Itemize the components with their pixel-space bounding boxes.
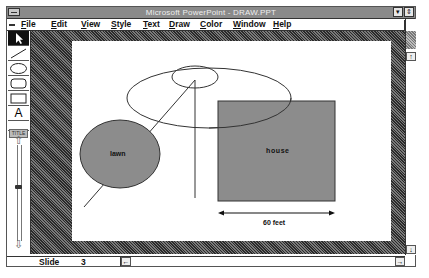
- zoom-slider-thumb[interactable]: [15, 185, 22, 189]
- slide-workspace: lawn house 60 feet: [31, 31, 405, 254]
- title-bar[interactable]: Microsoft PowerPoint - DRAW.PPT ▾ ⇕: [7, 7, 415, 19]
- menu-color[interactable]: Color: [200, 19, 222, 30]
- menu-view[interactable]: View: [81, 19, 100, 30]
- tool-rectangle[interactable]: [8, 91, 29, 106]
- tool-text[interactable]: A: [8, 106, 29, 121]
- window-title: Microsoft PowerPoint - DRAW.PPT: [7, 7, 415, 18]
- tool-rounded-rectangle[interactable]: [8, 76, 29, 91]
- menu-text[interactable]: Text: [143, 19, 160, 30]
- menu-style[interactable]: Style: [111, 19, 131, 30]
- scroll-right-button[interactable]: →: [395, 257, 405, 266]
- slide-drawing: [72, 41, 391, 241]
- text-tool-glyph: A: [14, 106, 22, 120]
- menu-edit[interactable]: Edit: [51, 19, 67, 30]
- scroll-left-button[interactable]: ←: [121, 257, 131, 266]
- lawn-label[interactable]: lawn: [110, 150, 126, 157]
- menu-help[interactable]: Help: [273, 19, 291, 30]
- zoom-slider[interactable]: ⇧ ⇩: [12, 135, 25, 251]
- menu-file[interactable]: File: [21, 19, 36, 30]
- ellipse-icon: [8, 61, 29, 76]
- powerpoint-window: Microsoft PowerPoint - DRAW.PPT ▾ ⇕ File…: [6, 6, 416, 267]
- status-bar: Slide 3 ← →: [7, 256, 405, 267]
- tool-ellipse[interactable]: [8, 61, 29, 76]
- restore-button[interactable]: ⇕: [404, 7, 414, 17]
- dimension-label[interactable]: 60 feet: [263, 219, 285, 226]
- horizontal-scrollbar[interactable]: ← →: [120, 257, 406, 266]
- vertical-scrollbar[interactable]: ↑ ↓: [405, 19, 417, 255]
- tool-line[interactable]: [8, 46, 29, 61]
- slide-canvas[interactable]: lawn house 60 feet: [72, 41, 391, 241]
- rectangle-icon: [8, 91, 29, 106]
- scroll-down-button[interactable]: ↓: [406, 245, 416, 254]
- zoom-slider-track[interactable]: [17, 145, 22, 241]
- menu-window[interactable]: Window: [233, 19, 266, 30]
- arrow-cursor-icon: [8, 31, 29, 46]
- drawing-toolbar: A TITLE ⇧ ⇩: [7, 31, 31, 254]
- rounded-rectangle-icon: [8, 76, 29, 91]
- house-label[interactable]: house: [266, 147, 290, 154]
- tool-arrow-select[interactable]: [8, 31, 29, 46]
- slide-number: 3: [81, 257, 86, 267]
- menu-bar: File Edit View Style Text Draw Color Win…: [7, 19, 415, 31]
- document-system-menu-icon[interactable]: [9, 24, 15, 26]
- zoom-down-arrow-icon[interactable]: ⇩: [12, 239, 25, 250]
- scroll-up-button[interactable]: ↑: [406, 52, 416, 61]
- minimize-button[interactable]: ▾: [393, 7, 403, 17]
- line-icon: [8, 46, 29, 61]
- menu-draw[interactable]: Draw: [169, 19, 190, 30]
- slide-page-indicator[interactable]: [406, 31, 416, 49]
- slide-label: Slide: [39, 257, 59, 267]
- tool-title-text[interactable]: TITLE: [8, 121, 29, 131]
